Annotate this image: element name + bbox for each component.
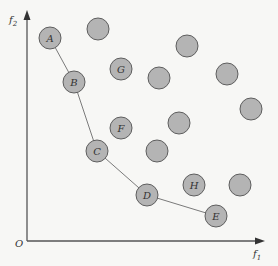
y-axis-label: f2 bbox=[8, 14, 18, 28]
point-label: D bbox=[142, 190, 151, 201]
solution-point-f: F bbox=[110, 117, 132, 139]
diagram-canvas: f2 f1 O ABCDEGFH bbox=[0, 0, 278, 266]
origin-label: O bbox=[15, 238, 23, 249]
x-axis-label: f1 bbox=[252, 248, 261, 262]
solution-point-c: C bbox=[86, 140, 108, 162]
solution-point-unlabeled bbox=[148, 67, 170, 89]
pareto-diagram: f2 f1 O ABCDEGFH bbox=[0, 0, 278, 266]
x-axis-arrow-icon bbox=[255, 238, 265, 245]
point-label: A bbox=[45, 33, 53, 44]
point-label: F bbox=[117, 123, 126, 134]
solution-point-d: D bbox=[136, 184, 158, 206]
point-label: B bbox=[69, 77, 77, 88]
solution-point-unlabeled bbox=[229, 174, 251, 196]
solution-point-unlabeled bbox=[240, 98, 262, 120]
solution-point-a: A bbox=[39, 27, 61, 49]
y-axis-arrow-icon bbox=[24, 10, 31, 20]
solution-point-unlabeled bbox=[168, 112, 190, 134]
labeled-points: ABCDEGFH bbox=[39, 27, 227, 227]
point-label: C bbox=[93, 146, 101, 157]
solution-point-e: E bbox=[205, 205, 227, 227]
solution-point-unlabeled bbox=[146, 140, 168, 162]
solution-point-unlabeled bbox=[176, 35, 198, 57]
point-label: G bbox=[117, 64, 125, 75]
solution-point-b: B bbox=[63, 71, 85, 93]
solution-point-unlabeled bbox=[216, 63, 238, 85]
point-label: H bbox=[189, 180, 199, 191]
point-label: E bbox=[211, 211, 220, 222]
dominated-points bbox=[87, 18, 262, 196]
solution-point-h: H bbox=[183, 174, 205, 196]
solution-point-unlabeled bbox=[87, 18, 109, 40]
solution-point-g: G bbox=[110, 58, 132, 80]
